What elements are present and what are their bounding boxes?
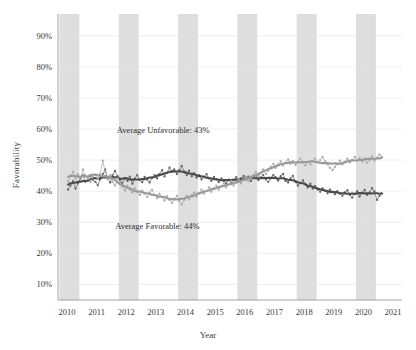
x-axis-title: Year [0, 330, 416, 340]
chart-annotation: Average Unfavorable: 43% [117, 125, 210, 135]
x-tick-label: 2021 [373, 307, 413, 317]
y-axis-title: Favorability [11, 115, 21, 215]
favorability-chart: 90%80%70%60%50%40%30%20%10% 201020112012… [0, 0, 416, 350]
x-axis-tick-labels: 2010201120122013201420152016201720182019… [0, 0, 416, 350]
chart-annotation: Average Favorable: 44% [115, 221, 199, 231]
